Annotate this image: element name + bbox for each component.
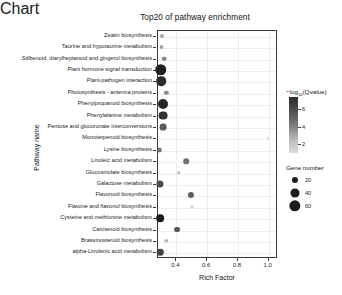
color-legend-tick-label: 6 xyxy=(302,106,305,112)
color-legend-tick xyxy=(298,127,301,128)
x-axis-tick-label: 1.0 xyxy=(264,262,272,268)
y-axis-tick xyxy=(153,173,156,174)
y-axis-tick xyxy=(153,230,156,231)
x-axis-tick-label: 0.4 xyxy=(171,262,179,268)
y-axis-tick xyxy=(153,218,156,219)
color-legend-tick-label: 2 xyxy=(302,141,305,147)
size-legend-item: 20 xyxy=(289,174,335,186)
y-axis-tick-label: Stilbenoid, diarylheptanoid and gingerol… xyxy=(22,56,152,62)
y-axis-tick xyxy=(153,36,156,37)
y-axis-tick xyxy=(153,138,156,139)
y-axis-tick-label: Galactose metabolism xyxy=(97,181,152,187)
y-axis-tick-label: Linoleic acid metabolism xyxy=(91,158,152,164)
data-point xyxy=(156,214,164,222)
grid-line-vertical xyxy=(238,31,239,257)
grid-line-vertical xyxy=(207,31,208,257)
y-axis-tick xyxy=(153,127,156,128)
grid-line-vertical xyxy=(269,31,270,257)
grid-line-horizontal xyxy=(158,37,276,38)
x-axis-tick-label: 0.6 xyxy=(202,262,210,268)
y-axis-tick-label: Plant-pathogen interaction xyxy=(87,79,152,85)
y-axis-tick-label: Lysine biosynthesis xyxy=(104,147,152,153)
y-axis-tick-label: Brassinosteroid biosynthesis xyxy=(81,238,152,244)
size-legend-item: 60 xyxy=(289,200,335,212)
grid-line-horizontal xyxy=(158,94,276,95)
y-axis-tick xyxy=(153,161,156,162)
y-axis-tick-label: Flavone and flavonol biosynthesis xyxy=(68,204,152,210)
y-axis-tick-label: Flavonoid biosynthesis xyxy=(95,193,152,199)
y-axis-tick xyxy=(153,81,156,82)
y-axis-tick xyxy=(153,241,156,242)
plot-panel xyxy=(157,30,277,258)
data-point xyxy=(174,227,180,233)
data-point xyxy=(160,123,167,130)
y-axis-tick-label: alpha-Linolenic acid metabolism xyxy=(72,250,152,256)
grid-line-horizontal xyxy=(158,185,276,186)
y-axis-tick-label: Taurine and hypotaurine metabolism xyxy=(62,44,152,50)
grid-line-horizontal xyxy=(158,208,276,209)
data-point xyxy=(157,147,162,152)
y-axis-tick xyxy=(153,150,156,151)
y-axis-tick xyxy=(153,184,156,185)
grid-line-horizontal xyxy=(158,128,276,129)
data-point xyxy=(157,77,167,87)
x-axis-tick xyxy=(237,258,238,261)
y-axis-tick xyxy=(153,70,156,71)
y-axis-tick-label: Zeatin biosynthesis xyxy=(104,33,152,39)
y-axis-tick xyxy=(153,104,156,105)
y-axis-tick xyxy=(153,93,156,94)
y-axis-title: Pathway name xyxy=(33,88,40,208)
size-legend-label: 60 xyxy=(305,203,311,209)
color-legend-title: −log10(Qvalue) xyxy=(286,88,327,97)
y-axis-tick-label: Plant hormone signal transduction xyxy=(67,67,152,73)
grid-line-horizontal xyxy=(158,48,276,49)
y-axis-tick-label: Phenylalanine metabolism xyxy=(87,113,152,119)
grid-line-horizontal xyxy=(158,82,276,83)
grid-line-horizontal xyxy=(158,71,276,72)
grid-line-horizontal xyxy=(158,117,276,118)
size-legend-dot xyxy=(292,177,298,183)
grid-line-horizontal xyxy=(158,196,276,197)
data-point xyxy=(157,249,164,256)
data-point xyxy=(158,111,167,120)
y-axis-tick-label: Phenylpropanoid biosynthesis xyxy=(78,101,152,107)
y-axis-tick xyxy=(153,47,156,48)
y-axis-tick xyxy=(153,195,156,196)
color-legend-tick xyxy=(298,109,301,110)
color-legend-tick-label: 4 xyxy=(302,124,305,130)
size-legend-label: 20 xyxy=(305,177,311,183)
data-point xyxy=(183,158,189,164)
grid-line-horizontal xyxy=(158,151,276,152)
color-legend-tick xyxy=(298,144,301,145)
color-legend-title-main: −log xyxy=(286,88,298,95)
grid-line-horizontal xyxy=(158,162,276,163)
color-legend-gradient xyxy=(289,97,298,153)
data-point xyxy=(162,56,167,61)
x-axis-tick xyxy=(175,258,176,261)
data-point xyxy=(160,45,164,49)
y-axis-tick-label: Pentose and glucuronate interconversions xyxy=(48,124,152,130)
y-axis-tick xyxy=(153,116,156,117)
y-axis-tick-label: Cysteine and methionine metabolism xyxy=(60,215,152,221)
grid-line-horizontal xyxy=(158,242,276,243)
y-axis-tick-label: Carotenoid biosynthesis xyxy=(92,227,152,233)
chart-canvas: Top20 of pathway enrichment Zeatin biosy… xyxy=(0,0,342,295)
data-point xyxy=(158,99,168,109)
grid-line-horizontal xyxy=(158,219,276,220)
data-point xyxy=(177,171,181,175)
data-point xyxy=(155,64,167,76)
x-axis-title: Rich Factor xyxy=(157,274,277,281)
x-axis-tick xyxy=(206,258,207,261)
grid-line-horizontal xyxy=(158,105,276,106)
y-axis-tick xyxy=(153,59,156,60)
grid-line-horizontal xyxy=(158,174,276,175)
grid-line-horizontal xyxy=(158,139,276,140)
data-point xyxy=(190,205,193,208)
color-legend-title-tail: (Qvalue) xyxy=(303,88,327,95)
size-legend-item: 40 xyxy=(289,187,335,199)
x-axis-tick xyxy=(268,258,269,261)
size-legend-label: 40 xyxy=(305,190,311,196)
y-axis-tick-label: Monoterpenoid biosynthesis xyxy=(82,136,152,142)
x-axis-tick-label: 0.8 xyxy=(233,262,241,268)
grid-line-horizontal xyxy=(158,60,276,61)
